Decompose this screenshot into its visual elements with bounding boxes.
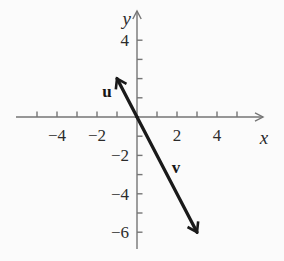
x-tick-label: 4 [213,126,222,145]
x-tick-label: −4 [48,126,67,145]
vectors [117,79,197,233]
x-axis-label: x [259,127,269,148]
vector-u [117,79,137,117]
y-ticks [137,40,143,232]
x-tick-label: 2 [173,126,182,145]
y-axis-label: y [121,8,132,29]
y-tick-label: −6 [111,223,129,242]
y-tick-label: −4 [111,185,130,204]
y-tick-label: −2 [111,146,129,165]
vector-diagram: −4−224 4−2−4−6 x y u v [0,0,284,261]
x-tick-label: −2 [88,126,106,145]
vector-u-label: u [102,82,111,101]
vector-v-label: v [172,158,181,177]
x-tick-labels: −4−224 [48,126,222,145]
figure-container: −4−224 4−2−4−6 x y u v [0,0,284,261]
y-tick-label: 4 [121,31,130,50]
y-tick-labels: 4−2−4−6 [111,31,130,242]
vector-v [137,117,197,232]
